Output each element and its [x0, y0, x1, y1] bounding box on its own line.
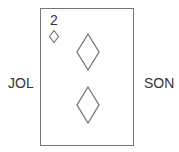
- bottom-diamond-icon: [76, 86, 100, 124]
- left-label: JOL: [8, 76, 34, 90]
- playing-card: 2: [40, 8, 134, 146]
- card-rank: 2: [50, 13, 58, 27]
- right-label: SON: [144, 76, 174, 90]
- corner-diamond-icon: [49, 30, 59, 43]
- top-diamond-icon: [76, 33, 100, 71]
